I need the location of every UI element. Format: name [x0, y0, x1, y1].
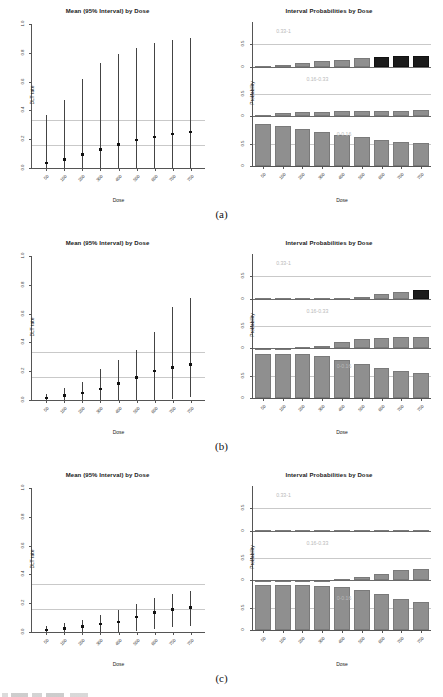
- x-tick: [263, 398, 264, 401]
- segment-label: 0.16-0.33: [306, 76, 328, 82]
- x-tick: [283, 166, 284, 169]
- figure-page: Mean (95% Interval) by Dose5010020030040…: [0, 0, 443, 697]
- mean-point: [135, 139, 138, 142]
- x-tick: [322, 630, 323, 633]
- bar: [413, 337, 429, 348]
- x-tick-label: 400: [325, 636, 346, 657]
- y-tick-label: 1.0: [20, 18, 25, 30]
- y-tick-label: 0.4: [20, 104, 25, 116]
- x-axis-title: Dose: [32, 661, 205, 667]
- x-tick-label: 400: [102, 638, 123, 659]
- plot-area: 0.33-100.50.16-0.3300.50-0.1600.55010020…: [253, 22, 431, 166]
- y-tick-label: 0.0: [20, 394, 25, 406]
- y-tick-label: 0: [240, 524, 245, 536]
- y-tick-label: 0.8: [20, 278, 25, 290]
- mean-point: [117, 621, 120, 624]
- y-tick-label: 0.2: [20, 133, 25, 145]
- segment-reference-line: [253, 326, 431, 327]
- interval-bar: [100, 369, 101, 400]
- segment-label: 0-0.16: [337, 131, 352, 137]
- x-tick-label: 700: [385, 404, 406, 425]
- interval-bar: [136, 350, 137, 400]
- bar: [393, 337, 409, 348]
- x-tick-label: 50: [246, 404, 267, 425]
- mean-point: [189, 363, 192, 366]
- bar: [314, 586, 330, 630]
- bar: [314, 356, 330, 398]
- x-tick-label: 750: [404, 636, 425, 657]
- bar: [334, 587, 350, 630]
- bar: [334, 60, 350, 67]
- mean-point: [135, 376, 138, 379]
- bar: [393, 570, 409, 580]
- x-tick-label: 200: [286, 172, 307, 193]
- interval-bar: [136, 48, 137, 168]
- bar: [295, 354, 311, 398]
- x-axis-title: Dose: [253, 197, 431, 203]
- bar: [374, 594, 390, 630]
- x-tick: [362, 630, 363, 633]
- bar: [374, 57, 390, 67]
- y-tick-label: 0.5: [240, 552, 245, 564]
- x-axis-title: Dose: [253, 661, 431, 667]
- y-tick-label: 0.2: [20, 597, 25, 609]
- x-tick-label: 400: [102, 174, 123, 195]
- bar: [413, 290, 429, 298]
- plot-area: 501002003004005006007507500.00.20.40.60.…: [32, 488, 205, 632]
- panel-caption: (a): [0, 208, 443, 220]
- x-axis: [32, 632, 205, 633]
- x-tick-label: 300: [305, 636, 326, 657]
- y-tick-label: 0.2: [20, 365, 25, 377]
- x-tick: [263, 630, 264, 633]
- x-tick: [421, 630, 422, 633]
- y-tick: [29, 139, 32, 140]
- bar: [275, 126, 291, 166]
- y-tick-label: 0.5: [240, 137, 245, 149]
- y-tick-label: 0: [240, 60, 245, 72]
- mean-point: [153, 136, 156, 139]
- bar: [413, 569, 429, 581]
- segment-label: 0.33-1: [276, 260, 291, 266]
- chart-left-b: Mean (95% Interval) by Dose5010020030040…: [0, 238, 215, 438]
- x-tick-label: 400: [325, 404, 346, 425]
- y-tick-label: 0.8: [20, 510, 25, 522]
- x-tick-label: 600: [365, 404, 386, 425]
- chart-title: Mean (95% Interval) by Dose: [0, 8, 215, 14]
- y-tick: [29, 53, 32, 54]
- x-tick-label: 750: [404, 172, 425, 193]
- y-axis-title: DLT rate: [29, 531, 35, 587]
- x-tick: [302, 630, 303, 633]
- bar: [255, 354, 271, 398]
- panel-b: Mean (95% Interval) by Dose5010020030040…: [0, 232, 443, 464]
- y-tick-label: 0: [240, 292, 245, 304]
- y-tick-label: 0.8: [20, 46, 25, 58]
- interval-bar: [172, 307, 173, 398]
- x-tick-label: 50: [246, 636, 267, 657]
- panel-a: Mean (95% Interval) by Dose5010020030040…: [0, 0, 443, 232]
- segment-label: 0.16-0.33: [306, 308, 328, 314]
- x-tick-label: 750: [404, 404, 425, 425]
- chart-right-a: Interval Probabilities by Dose0.33-100.5…: [215, 6, 443, 206]
- mean-point: [63, 627, 66, 630]
- x-tick-label: 300: [305, 172, 326, 193]
- panel-caption: (c): [0, 672, 443, 684]
- x-tick: [401, 398, 402, 401]
- mean-point: [45, 397, 48, 400]
- y-tick: [29, 24, 32, 25]
- x-tick: [362, 166, 363, 169]
- x-tick: [382, 630, 383, 633]
- bar: [255, 585, 271, 630]
- mean-point: [153, 611, 156, 614]
- segment-reference-line: [253, 558, 431, 559]
- interval-bar: [154, 43, 155, 168]
- y-tick-label: 0.6: [20, 539, 25, 551]
- y-tick-label: 0: [240, 574, 245, 586]
- chart-left-a: Mean (95% Interval) by Dose5010020030040…: [0, 6, 215, 206]
- plot-area: 0.33-100.50.16-0.3300.50-0.1600.55010020…: [253, 486, 431, 630]
- x-tick-label: 100: [266, 404, 287, 425]
- x-tick-label: 600: [365, 636, 386, 657]
- bar: [295, 129, 311, 166]
- bar: [275, 585, 291, 630]
- bar: [393, 371, 409, 398]
- mean-point: [171, 608, 174, 611]
